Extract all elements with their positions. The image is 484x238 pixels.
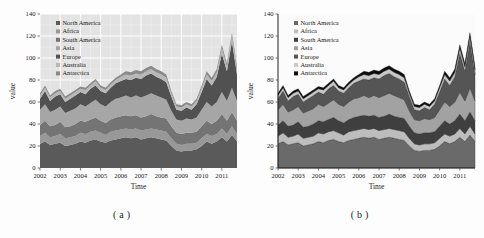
chart-b-svg: 0204060801001201402002200320042005200620… (244, 2, 478, 202)
legend-swatch-antarctica (294, 71, 298, 75)
x-tick-label: 2004 (74, 172, 88, 179)
y-tick-label: 40 (267, 120, 274, 127)
x-tick-label: 2011 (453, 172, 466, 179)
y-tick-label: 120 (26, 32, 37, 39)
chart-a-svg: 0204060801001201402002200320042005200620… (6, 2, 240, 202)
legend-swatch-asia (294, 46, 298, 50)
legend-swatch-europe (56, 55, 60, 59)
x-tick-label: 2010 (195, 172, 209, 179)
legend-swatch-europe (294, 55, 298, 59)
x-tick-label: 2005 (332, 172, 346, 179)
x-tick-label: 2006 (114, 172, 128, 179)
x-tick-label: 2006 (352, 172, 366, 179)
legend-swatch-south-america (56, 38, 60, 42)
legend-label-south-america: South America (63, 36, 101, 43)
caption-b: (b) (244, 209, 478, 220)
x-tick-label: 2011 (215, 172, 228, 179)
chart-panel-b: 0204060801001201402002200320042005200620… (244, 2, 478, 202)
x-tick-label: 2002 (271, 172, 284, 179)
y-tick-label: 20 (267, 142, 274, 149)
legend-label-north-america: North America (301, 19, 339, 26)
legend-label-north-america: North America (63, 19, 101, 26)
legend-label-europe: Europe (63, 53, 82, 60)
x-tick-label: 2007 (372, 172, 386, 179)
x-tick-label: 2009 (413, 172, 427, 179)
legend-label-africa: Africa (301, 27, 317, 34)
x-tick-label: 2003 (292, 172, 306, 179)
y-tick-label: 140 (26, 10, 37, 17)
y-tick-label: 0 (270, 164, 274, 171)
y-tick-label: 60 (29, 98, 36, 105)
x-tick-label: 2003 (54, 172, 68, 179)
legend-label-asia: Asia (301, 44, 313, 51)
legend-label-antarctica: Antarctica (301, 69, 328, 76)
legend-swatch-north-america (56, 21, 60, 25)
legend-swatch-australia (294, 63, 298, 67)
chart-panel-a: 0204060801001201402002200320042005200620… (6, 2, 240, 202)
caption-a: (a) (6, 209, 240, 220)
legend-label-asia: Asia (63, 44, 75, 51)
y-tick-label: 80 (267, 76, 274, 83)
legend-swatch-australia (56, 63, 60, 67)
y-tick-label: 40 (29, 120, 36, 127)
y-tick-label: 0 (32, 164, 36, 171)
x-axis-title: Time (131, 182, 147, 191)
x-tick-label: 2008 (155, 172, 169, 179)
legend-label-south-america: South America (301, 36, 339, 43)
legend-label-antarctica: Antarctica (63, 69, 90, 76)
legend-label-australia: Australia (301, 61, 325, 68)
x-tick-label: 2005 (94, 172, 108, 179)
legend-swatch-asia (56, 46, 60, 50)
x-tick-label: 2008 (393, 172, 407, 179)
y-tick-label: 100 (26, 54, 37, 61)
x-tick-label: 2004 (312, 172, 326, 179)
y-axis-title: value (8, 82, 17, 99)
y-axis-title: value (246, 82, 255, 99)
legend-label-europe: Europe (301, 53, 320, 60)
legend-label-australia: Australia (63, 61, 87, 68)
y-tick-label: 120 (264, 32, 275, 39)
x-tick-label: 2007 (134, 172, 148, 179)
legend-label-africa: Africa (63, 27, 79, 34)
y-tick-label: 140 (264, 10, 275, 17)
y-tick-label: 80 (29, 76, 36, 83)
legend-swatch-south-america (294, 38, 298, 42)
legend-swatch-africa (56, 29, 60, 33)
legend-swatch-antarctica (56, 71, 60, 75)
y-tick-label: 60 (267, 98, 274, 105)
x-tick-label: 2002 (33, 172, 46, 179)
y-tick-label: 100 (264, 54, 275, 61)
x-tick-label: 2010 (433, 172, 447, 179)
x-tick-label: 2009 (175, 172, 189, 179)
y-tick-label: 20 (29, 142, 36, 149)
x-axis-title: Time (369, 182, 385, 191)
legend-swatch-north-america (294, 21, 298, 25)
legend-swatch-africa (294, 29, 298, 33)
